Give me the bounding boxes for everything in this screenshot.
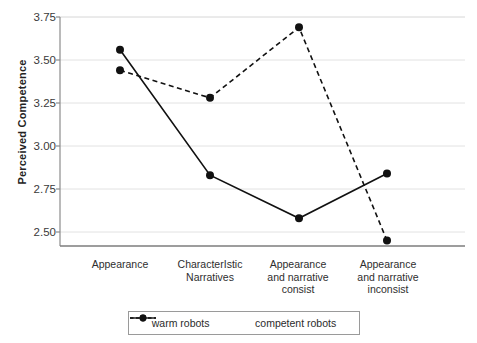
data-point[interactable] xyxy=(295,23,303,31)
x-tick-line: consist xyxy=(256,283,340,296)
data-point[interactable] xyxy=(116,46,124,54)
data-series-layer xyxy=(116,23,391,244)
x-tick-line: Narratives xyxy=(168,271,252,284)
legend-label: competent robots xyxy=(255,317,336,329)
chart-legend: warm robots competent robots xyxy=(128,311,360,335)
data-point[interactable] xyxy=(206,94,214,102)
x-tick-line: Appearance xyxy=(256,258,340,271)
x-tick-label-1: CharacterIstic Narratives xyxy=(168,258,252,283)
data-point[interactable] xyxy=(206,171,214,179)
x-tick-line: and narrative xyxy=(345,271,431,284)
x-tick-line: CharacterIstic xyxy=(168,258,252,271)
legend-label: warm robots xyxy=(152,317,210,329)
legend-item-competent-robots[interactable]: competent robots xyxy=(255,317,336,329)
legend-swatch-dashed-icon xyxy=(129,312,157,324)
series-line-competent-robots xyxy=(120,27,387,240)
data-point[interactable] xyxy=(116,66,124,74)
chart-figure: Perceived Competence 3.75 3.50 3.25 3.00… xyxy=(0,0,477,343)
x-tick-label-0: Appearance xyxy=(78,258,162,271)
x-tick-line: Appearance xyxy=(345,258,431,271)
x-tick-line: inconsist xyxy=(345,283,431,296)
y-axis-line xyxy=(56,17,60,246)
x-tick-label-2: Appearance and narrative consist xyxy=(256,258,340,296)
data-point[interactable] xyxy=(295,214,303,222)
legend-item-warm-robots[interactable]: warm robots xyxy=(152,317,210,329)
series-line-warm-robots xyxy=(120,50,387,219)
x-tick-label-3: Appearance and narrative inconsist xyxy=(345,258,431,296)
data-point[interactable] xyxy=(383,170,391,178)
data-point[interactable] xyxy=(383,237,391,245)
x-tick-line: Appearance xyxy=(78,258,162,271)
x-tick-line: and narrative xyxy=(256,271,340,284)
